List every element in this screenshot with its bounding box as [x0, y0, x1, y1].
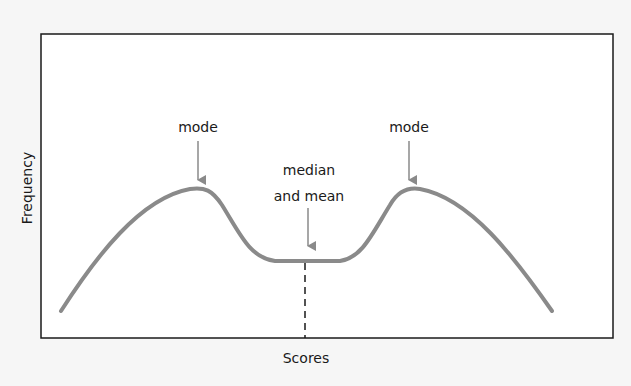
- plot-frame: [41, 34, 613, 338]
- y-axis-label: Frequency: [19, 152, 35, 224]
- x-axis-label: Scores: [283, 350, 330, 366]
- mode-right-label: mode: [389, 119, 429, 135]
- bimodal-distribution-diagram: mode mode median and mean Scores Frequen…: [0, 0, 631, 386]
- median-label-line1: median: [283, 162, 335, 178]
- mode-left-label: mode: [178, 119, 218, 135]
- median-label-line2: and mean: [274, 188, 345, 204]
